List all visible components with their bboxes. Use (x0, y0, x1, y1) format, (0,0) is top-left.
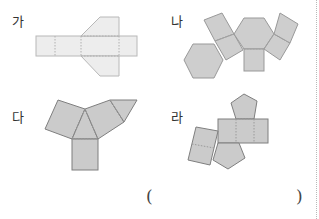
nets-figure (0, 0, 319, 219)
answer-open-paren: ( (146, 188, 153, 205)
net-na (184, 13, 298, 78)
answer-close-paren: ) (296, 188, 303, 205)
net-da (45, 100, 137, 170)
net-ga (36, 17, 137, 76)
dotted-divider (316, 0, 317, 219)
net-ra (188, 94, 268, 169)
